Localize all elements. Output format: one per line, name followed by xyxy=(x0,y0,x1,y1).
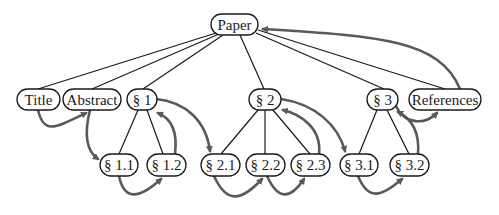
edge-s1-s1-2 xyxy=(147,110,163,154)
edge-paper-s2 xyxy=(240,35,264,89)
edge-s1-s1-1 xyxy=(119,110,138,154)
node-section-1-1: § 1.1 xyxy=(100,154,138,176)
node-label: § 3.1 xyxy=(344,157,374,173)
node-label: References xyxy=(412,92,479,108)
node-section-3-1: § 3.1 xyxy=(340,154,378,176)
node-label: § 3.2 xyxy=(395,157,425,173)
node-label: § 2 xyxy=(256,92,275,108)
node-section-1-2: § 1.2 xyxy=(147,154,186,176)
node-section-2: § 2 xyxy=(249,89,281,110)
arrow-s1-s2-1 xyxy=(156,99,210,151)
arrow-title-abstract xyxy=(38,110,86,127)
node-label: § 1 xyxy=(133,92,152,108)
node-title: Title xyxy=(17,89,60,110)
node-label: § 2.3 xyxy=(296,157,326,173)
edge-paper-s3 xyxy=(256,33,384,89)
arrow-s3-1-s3-2 xyxy=(358,176,402,194)
arrow-s2-1-s2-2 xyxy=(214,176,262,196)
reading-order-tree-diagram: Paper Title Abstract § 1 § 2 § 3 Referen… xyxy=(0,0,499,215)
arrow-s2-s3-1 xyxy=(281,99,345,151)
arrow-references-paper xyxy=(263,29,460,89)
node-section-3: § 3 xyxy=(367,89,398,110)
edge-paper-title xyxy=(38,33,216,89)
node-label: § 1.2 xyxy=(152,157,182,173)
edge-s2-s2-1 xyxy=(221,110,258,154)
arrow-s1-1-s1-2 xyxy=(119,176,161,194)
edge-s3-s3-1 xyxy=(359,110,377,154)
node-label: Title xyxy=(25,92,53,108)
node-label: § 1.1 xyxy=(104,157,134,173)
arrow-s2-2-s2-3 xyxy=(267,176,304,194)
node-paper: Paper xyxy=(211,14,258,35)
edge-paper-references xyxy=(258,30,445,89)
node-section-2-1: § 2.1 xyxy=(201,154,240,176)
arrow-s2-3-s2 xyxy=(283,110,319,154)
node-section-1: § 1 xyxy=(127,89,157,110)
node-section-3-2: § 3.2 xyxy=(390,154,429,176)
node-section-2-2: § 2.2 xyxy=(246,154,285,176)
node-section-2-3: § 2.3 xyxy=(291,154,330,176)
node-label: Abstract xyxy=(67,92,119,108)
node-label: Paper xyxy=(217,17,251,33)
node-abstract: Abstract xyxy=(63,89,121,110)
node-label: § 3 xyxy=(373,92,392,108)
node-references: References xyxy=(409,89,481,110)
node-label: § 2.1 xyxy=(206,157,236,173)
arrow-abstract-s1-1 xyxy=(87,110,98,159)
edge-s2-s2-3 xyxy=(273,110,310,154)
node-label: § 2.2 xyxy=(251,157,281,173)
